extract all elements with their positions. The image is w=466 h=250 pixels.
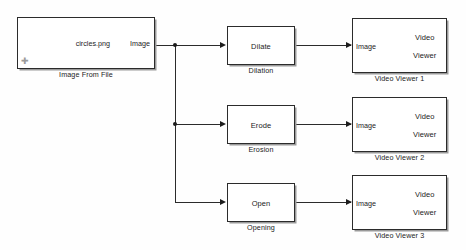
block-dilate-body: Dilate — [228, 27, 294, 64]
block-image-from-file[interactable]: circles.png Image ✚ — [17, 17, 155, 69]
caption-dilation: Dilation — [227, 66, 295, 75]
viewer2-label-line1: Video — [415, 111, 435, 120]
wire-open-to-viewer3 — [295, 202, 351, 203]
arrowhead-erode-input — [220, 121, 226, 127]
move-cursor-icon: ✚ — [21, 57, 30, 66]
arrowhead-open-input — [220, 199, 226, 205]
viewer2-label: Video Viewer — [394, 102, 438, 147]
viewer2-input-port: Image — [356, 120, 376, 129]
wire-junction1-to-dilate — [175, 45, 221, 46]
wire-junction-1 — [173, 43, 178, 48]
block-video-viewer-1[interactable]: Image Video Viewer — [352, 18, 447, 73]
erode-label: Erode — [228, 120, 294, 129]
dilate-label: Dilate — [228, 41, 294, 50]
arrowhead-dilate-input — [220, 42, 226, 48]
block-video-viewer-2-body: Image Video Viewer — [353, 98, 446, 151]
viewer3-label-line1: Video — [415, 189, 435, 198]
wire-erode-to-viewer2 — [295, 124, 351, 125]
viewer2-label-line2: Viewer — [413, 129, 436, 138]
block-video-viewer-3[interactable]: Image Video Viewer — [352, 175, 447, 230]
viewer3-label-line2: Viewer — [413, 207, 436, 216]
caption-video-viewer-3: Video Viewer 3 — [352, 231, 447, 240]
caption-video-viewer-1: Video Viewer 1 — [352, 74, 447, 83]
viewer1-label-line2: Viewer — [413, 50, 436, 59]
wire-dilate-to-viewer1 — [295, 45, 351, 46]
open-label: Open — [228, 198, 294, 207]
image-from-file-output-port: Image — [130, 39, 150, 48]
viewer1-label-line1: Video — [415, 32, 435, 41]
block-erode[interactable]: Erode — [227, 105, 295, 144]
caption-video-viewer-2: Video Viewer 2 — [352, 153, 447, 162]
block-video-viewer-2[interactable]: Image Video Viewer — [352, 97, 447, 152]
caption-image-from-file: Image From File — [17, 70, 155, 79]
viewer3-label: Video Viewer — [394, 180, 438, 225]
block-erode-body: Erode — [228, 106, 294, 143]
block-dilate[interactable]: Dilate — [227, 26, 295, 65]
wire-junction-2 — [173, 122, 178, 127]
block-open[interactable]: Open — [227, 183, 295, 222]
image-from-file-filename: circles.png — [76, 39, 110, 48]
block-video-viewer-3-body: Image Video Viewer — [353, 176, 446, 229]
viewer1-input-port: Image — [356, 41, 376, 50]
block-image-from-file-body: circles.png Image ✚ — [18, 18, 154, 68]
caption-opening: Opening — [227, 223, 295, 232]
caption-erosion: Erosion — [227, 145, 295, 154]
wire-trunk-to-open — [175, 202, 221, 203]
block-diagram-canvas: circles.png Image ✚ Image From File Dila… — [0, 0, 466, 250]
viewer3-input-port: Image — [356, 198, 376, 207]
viewer1-label: Video Viewer — [394, 23, 438, 68]
wire-junction2-to-erode — [175, 124, 221, 125]
block-video-viewer-1-body: Image Video Viewer — [353, 19, 446, 72]
block-open-body: Open — [228, 184, 294, 221]
